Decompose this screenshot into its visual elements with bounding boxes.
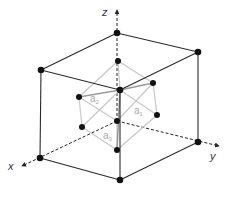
atom-top-back (114, 30, 121, 37)
y-axis (117, 121, 219, 146)
y-axis-label: y (209, 150, 217, 162)
z-axis-label: z (101, 6, 108, 18)
atom-top-left (38, 67, 45, 74)
atom-inner-left (79, 124, 85, 130)
atom-origin (114, 118, 120, 124)
vector-a2-label: a2 (90, 93, 100, 105)
atom-face-top (115, 58, 121, 64)
atom-top-front (117, 87, 124, 94)
x-axis-label: x (7, 160, 14, 172)
x-axis (22, 121, 117, 166)
atom-inner-right (154, 112, 160, 118)
vector-a1-label: a1 (134, 105, 144, 117)
atom-face-right (150, 80, 156, 86)
atom-face-left (76, 94, 82, 100)
atom-bottom-front (117, 177, 124, 184)
atom-bottom-right (195, 139, 202, 146)
vector-a3-label: a3 (103, 130, 113, 142)
fcc-lattice-diagram: z x y a2 a1 a3 (0, 0, 233, 197)
atom-top-right (195, 49, 202, 56)
atom-bottom-left (37, 155, 44, 162)
atom-face-bottom (114, 147, 120, 153)
